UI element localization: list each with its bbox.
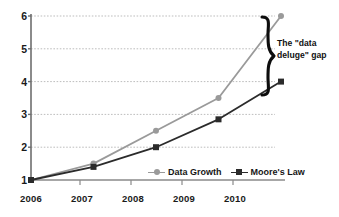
y-tick-label: 4 bbox=[14, 77, 27, 88]
legend-marker-circle-icon bbox=[148, 168, 165, 177]
x-axis-tick-2009: 2009 bbox=[159, 188, 209, 206]
x-tick-label: 2007 bbox=[71, 193, 93, 204]
legend-label: Data Growth bbox=[168, 167, 222, 177]
y-tick-label: 3 bbox=[14, 109, 27, 120]
legend-label: Moore's Law bbox=[251, 167, 305, 177]
x-axis-tick-2007: 2007 bbox=[57, 188, 107, 206]
annotation-line-2: deluge" gap bbox=[277, 50, 337, 62]
x-tick-label: 2010 bbox=[224, 193, 246, 204]
legend-item-moores-law[interactable]: Moore's Law bbox=[231, 167, 305, 177]
x-axis-tick-2008: 2008 bbox=[108, 188, 158, 206]
data-point-marker bbox=[153, 128, 159, 134]
y-tick-label: 5 bbox=[14, 44, 27, 55]
data-deluge-gap-annotation: The "data deluge" gap bbox=[277, 38, 337, 61]
annotation-line-1: The "data bbox=[277, 38, 337, 50]
x-axis-tick-2006: 2006 bbox=[6, 188, 56, 206]
gridlines bbox=[31, 16, 275, 147]
data-point-marker bbox=[28, 177, 34, 183]
y-tick-label: 1 bbox=[14, 175, 27, 186]
y-tick-label: 2 bbox=[14, 142, 27, 153]
y-tick-label: 6 bbox=[14, 11, 27, 22]
x-tick-label: 2009 bbox=[173, 193, 195, 204]
series-data-growth bbox=[28, 13, 284, 183]
data-point-marker bbox=[278, 13, 284, 19]
chart-legend: Data Growth Moore's Law bbox=[146, 166, 307, 178]
axes bbox=[28, 14, 285, 185]
data-point-marker bbox=[91, 164, 97, 170]
data-point-marker bbox=[216, 95, 222, 101]
legend-marker-square-icon bbox=[231, 168, 248, 177]
data-point-marker bbox=[153, 144, 159, 150]
legend-item-data-growth[interactable]: Data Growth bbox=[148, 167, 222, 177]
x-tick-label: 2006 bbox=[20, 193, 42, 204]
chart-canvas bbox=[0, 0, 339, 217]
data-point-marker bbox=[278, 79, 284, 85]
line-chart: 6 5 4 3 2 1 2006 2007 2008 2009 2010 Dat… bbox=[0, 0, 339, 217]
x-tick-label: 2008 bbox=[122, 193, 144, 204]
data-point-marker bbox=[216, 116, 222, 122]
x-axis-tick-2010: 2010 bbox=[210, 188, 260, 206]
